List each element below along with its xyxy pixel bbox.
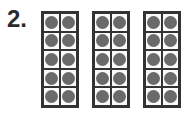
counter-dot-icon bbox=[147, 16, 160, 29]
frame-cell bbox=[60, 87, 77, 106]
counter-dot-icon bbox=[113, 90, 126, 103]
counter-dot-icon bbox=[96, 16, 109, 29]
counter-dot-icon bbox=[113, 53, 126, 66]
frame-cell bbox=[111, 32, 128, 51]
frame-cell bbox=[43, 87, 60, 106]
ten-frame-2 bbox=[92, 11, 130, 108]
frame-cell bbox=[162, 32, 179, 51]
counter-dot-icon bbox=[45, 53, 58, 66]
frame-cell bbox=[111, 87, 128, 106]
frame-cell bbox=[94, 69, 111, 88]
counter-dot-icon bbox=[147, 90, 160, 103]
counter-dot-icon bbox=[164, 90, 177, 103]
frame-cell bbox=[43, 50, 60, 69]
frame-cell bbox=[111, 13, 128, 32]
frame-cell bbox=[60, 50, 77, 69]
counter-dot-icon bbox=[96, 72, 109, 85]
frame-cell bbox=[43, 32, 60, 51]
counter-dot-icon bbox=[62, 34, 75, 47]
frame-cell bbox=[60, 32, 77, 51]
frame-cell bbox=[145, 87, 162, 106]
frame-cell bbox=[94, 13, 111, 32]
frame-cell bbox=[145, 13, 162, 32]
counter-dot-icon bbox=[147, 53, 160, 66]
counter-dot-icon bbox=[62, 53, 75, 66]
counter-dot-icon bbox=[96, 90, 109, 103]
frame-cell bbox=[145, 69, 162, 88]
counter-dot-icon bbox=[45, 34, 58, 47]
frame-cell bbox=[111, 69, 128, 88]
frame-cell bbox=[145, 32, 162, 51]
frame-cell bbox=[162, 69, 179, 88]
counter-dot-icon bbox=[96, 53, 109, 66]
counter-dot-icon bbox=[62, 90, 75, 103]
frame-cell bbox=[94, 32, 111, 51]
counter-dot-icon bbox=[113, 72, 126, 85]
frame-cell bbox=[162, 13, 179, 32]
ten-frame-3 bbox=[143, 11, 181, 108]
frame-cell bbox=[145, 50, 162, 69]
frame-cell bbox=[162, 87, 179, 106]
counter-dot-icon bbox=[164, 16, 177, 29]
counter-dot-icon bbox=[62, 16, 75, 29]
counter-dot-icon bbox=[164, 72, 177, 85]
frame-cell bbox=[60, 13, 77, 32]
problem-number: 2. bbox=[7, 7, 27, 31]
counter-dot-icon bbox=[45, 90, 58, 103]
counter-dot-icon bbox=[164, 34, 177, 47]
frame-cell bbox=[94, 87, 111, 106]
frame-cell bbox=[162, 50, 179, 69]
frame-cell bbox=[43, 13, 60, 32]
ten-frame-1 bbox=[41, 11, 79, 108]
frame-cell bbox=[94, 50, 111, 69]
counter-dot-icon bbox=[62, 72, 75, 85]
frame-cell bbox=[43, 69, 60, 88]
counter-dot-icon bbox=[45, 16, 58, 29]
counter-dot-icon bbox=[147, 34, 160, 47]
frame-cell bbox=[60, 69, 77, 88]
counter-dot-icon bbox=[45, 72, 58, 85]
counter-dot-icon bbox=[113, 34, 126, 47]
counter-dot-icon bbox=[113, 16, 126, 29]
frame-cell bbox=[111, 50, 128, 69]
counter-dot-icon bbox=[164, 53, 177, 66]
counter-dot-icon bbox=[96, 34, 109, 47]
counter-dot-icon bbox=[147, 72, 160, 85]
